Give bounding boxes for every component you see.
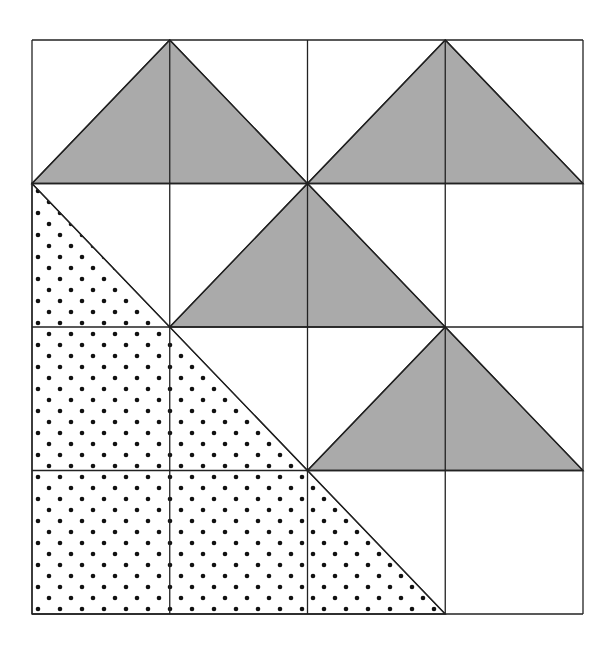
quilt-diagram (0, 0, 616, 649)
